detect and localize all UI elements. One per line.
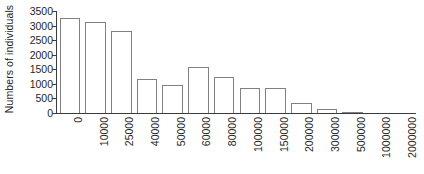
y-axis-tick-label: 1500 bbox=[17, 64, 53, 74]
x-axis-tick-label: 100000 bbox=[253, 117, 264, 174]
bar bbox=[188, 67, 209, 113]
bar bbox=[137, 79, 158, 113]
y-axis-tick-mark bbox=[52, 26, 56, 27]
x-axis-tick-label: 500000 bbox=[356, 117, 367, 174]
bar bbox=[162, 85, 183, 113]
bar bbox=[265, 88, 286, 113]
y-axis-tick-mark bbox=[52, 84, 56, 85]
bar bbox=[214, 77, 235, 113]
x-axis-tick-label: 10000 bbox=[99, 117, 110, 174]
x-axis-tick-label: 1000000 bbox=[381, 117, 392, 174]
bar bbox=[60, 18, 81, 113]
y-axis-tick-mark bbox=[52, 98, 56, 99]
bar-chart-figure: Numbers of individuals 05001000150020002… bbox=[0, 0, 424, 174]
y-axis-tick-label: 2000 bbox=[17, 50, 53, 60]
bar bbox=[111, 31, 132, 113]
y-axis-tick-mark bbox=[52, 69, 56, 70]
y-axis-tick-label: 500 bbox=[17, 93, 53, 103]
x-axis-tick-label: 50000 bbox=[176, 117, 187, 174]
x-axis-tick-label: 0 bbox=[73, 117, 84, 174]
x-axis-tick-label: 150000 bbox=[279, 117, 290, 174]
bar bbox=[291, 103, 312, 113]
bar bbox=[240, 88, 261, 113]
y-axis-tick-mark bbox=[52, 40, 56, 41]
x-axis-tick-label: 25000 bbox=[124, 117, 135, 174]
y-axis-tick-label: 3000 bbox=[17, 21, 53, 31]
y-axis-title-label: Numbers of individuals bbox=[3, 5, 15, 113]
x-axis-tick-label: 40000 bbox=[150, 117, 161, 174]
x-axis-tick-labels: 0100002500040000500006000080000100000150… bbox=[56, 113, 416, 174]
y-axis-tick-label: 0 bbox=[17, 108, 53, 118]
x-axis-tick-label: 300000 bbox=[330, 117, 341, 174]
y-axis-tick-mark bbox=[52, 55, 56, 56]
bar bbox=[85, 22, 106, 113]
y-axis-tick-label: 3500 bbox=[17, 6, 53, 16]
bars-layer bbox=[57, 11, 416, 113]
plot-area bbox=[56, 11, 416, 113]
x-axis-tick-label: 2000000 bbox=[407, 117, 418, 174]
x-axis-tick-label: 60000 bbox=[201, 117, 212, 174]
y-axis-tick-labels: 0500100015002000250030003500 bbox=[17, 6, 53, 116]
x-axis-tick-label: 80000 bbox=[227, 117, 238, 174]
x-axis-tick-label: 200000 bbox=[304, 117, 315, 174]
y-axis-title: Numbers of individuals bbox=[0, 0, 18, 118]
y-axis-tick-mark bbox=[52, 11, 56, 12]
y-axis-tick-label: 1000 bbox=[17, 79, 53, 89]
y-axis-tick-label: 2500 bbox=[17, 35, 53, 45]
